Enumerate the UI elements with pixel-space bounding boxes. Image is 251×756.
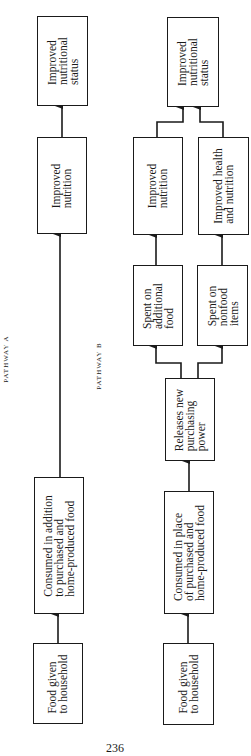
node-text: Spent on additional food: [142, 283, 175, 329]
pathway-b-improved-health-box: Improved health and nutrition: [198, 137, 249, 235]
node-text: Releases new purchasing power: [174, 388, 207, 450]
pathway-b-food-given-box: Food given to household: [163, 643, 214, 725]
node-text: Food given to household: [178, 654, 200, 713]
pathway-a-improved-nutrition-box: Improved nutrition: [37, 137, 87, 234]
pathway-b-spent-nonfood-box: Spent on nonfood items: [197, 265, 248, 346]
page-number: 236: [106, 741, 124, 756]
node-text: Spent on nonfood items: [206, 285, 239, 326]
node-text: Consumed in addition to purchased and ho…: [43, 495, 76, 597]
node-text: Improved health and nutrition: [213, 148, 235, 224]
node-text: Improved nutritional status: [177, 38, 210, 86]
pathway-a-food-given-box: Food given to household: [33, 643, 83, 724]
pathway-b-consumed-place-box: Consumed in place of purchased and home-…: [164, 491, 214, 614]
pathway-b-spent-food-box: Spent on additional food: [133, 265, 183, 346]
pathway-b-improved-nutrition-box: Improved nutrition: [133, 137, 183, 235]
node-text: Consumed in place of purchased and home-…: [173, 504, 206, 600]
node-text: Improved nutrition: [147, 164, 169, 209]
pathway-a-improved-status-box: Improved nutritional status: [37, 16, 88, 106]
pathway-b-releases-power-box: Releases new purchasing power: [165, 378, 215, 461]
node-text: Improved nutritional status: [46, 37, 79, 85]
pathway-b-label: PATHWAY B: [95, 342, 103, 389]
pathway-b-improved-status-box: Improved nutritional status: [167, 17, 219, 107]
node-text: Food given to household: [47, 654, 69, 713]
pathway-a-label: PATHWAY A: [2, 335, 10, 382]
pathway-a-consumed-addition-box: Consumed in addition to purchased and ho…: [34, 477, 84, 614]
node-text: Improved nutrition: [51, 163, 73, 208]
